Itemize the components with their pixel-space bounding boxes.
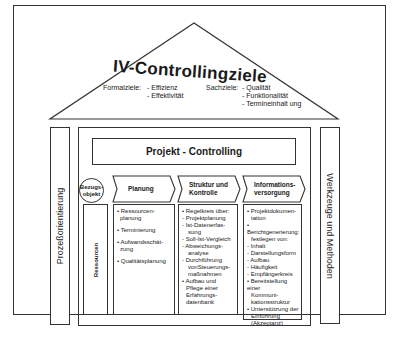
struktur-item: datenbank (182, 299, 235, 306)
struktur-item: • Regelkreis über: (182, 208, 235, 215)
sachziele-label: Sachziele: (206, 84, 238, 91)
struktur-item: maßnahmen (182, 271, 235, 278)
planung-content: • Ressourcen- planung • Terminierung • A… (113, 204, 175, 315)
struktur-item: vonSteuerungs- (182, 264, 235, 271)
struktur-item: sung (182, 229, 235, 236)
information-item: (Akzeptanz) (247, 320, 299, 327)
planung-item: • Qualitätsplanung (117, 258, 172, 265)
information-item: - Darstellungsform (247, 250, 299, 257)
ressourcen-box: Ressourcen (83, 204, 108, 315)
struktur-title-line2: Kontrolle (189, 189, 228, 197)
planung-title: Planung (128, 185, 154, 193)
sachziele-item: - Termineinhalt ung (242, 100, 301, 108)
planung-item: • Aufwandsschät- (117, 239, 172, 246)
formalziele-item: - Effizienz (147, 84, 183, 92)
struktur-item: • Aufbau und (182, 278, 235, 285)
formalziele-item: - Effektivität (147, 92, 183, 100)
planung-item: planung (117, 215, 172, 222)
planung-item: • Terminierung (117, 227, 172, 234)
formalziele-list: - Effizienz - Effektivität (147, 84, 183, 100)
information-item: kationsstruktur (247, 299, 299, 306)
information-item: tation (247, 215, 299, 222)
struktur-title: Struktur und Kontrolle (189, 181, 228, 197)
bezugsobjekt-line2: objekt (80, 191, 103, 198)
ressourcen-label: Ressourcen (93, 242, 99, 276)
bezugsobjekt-line1: Bezugs- (80, 184, 103, 191)
sachziele-item: - Funktionalität (242, 92, 301, 100)
information-item: Kommuni- (247, 292, 299, 299)
information-item: • Bereitstellung einer (247, 278, 299, 292)
information-item: • Berichtgenerierung: (247, 222, 299, 236)
planung-title-text: Planung (128, 185, 154, 193)
projekt-controlling-box: Projekt - Controlling (92, 138, 296, 165)
struktur-item: analyse (182, 250, 235, 257)
struktur-item: - Abweichungs- (182, 243, 235, 250)
struktur-content: • Regelkreis über: - Projektplanung - Is… (178, 204, 238, 315)
struktur-title-line1: Struktur und (189, 181, 228, 189)
struktur-item: Pflege einer (182, 285, 235, 292)
information-item: • Projektdokumen- (247, 208, 299, 215)
planung-item: • Ressourcen- (117, 208, 172, 215)
information-item: • Unterstützung der (247, 306, 299, 313)
right-pillar: Werkzeuge und Methoden (320, 127, 340, 324)
sachziele-item: - Qualität (242, 84, 301, 92)
information-item: - Inhalt (247, 243, 299, 250)
struktur-item: - Soll-Ist-Vergleich (182, 236, 235, 243)
sachziele-list: - Qualität - Funktionalität - Termineinh… (242, 84, 301, 108)
left-pillar: Prozeßorientierung (50, 127, 70, 325)
information-item: - Aufbau (247, 257, 299, 264)
bezugsobjekt-circle: Bezugs- objekt (79, 178, 104, 203)
projekt-controlling-title: Projekt - Controlling (146, 146, 242, 157)
left-pillar-label: Prozeßorientierung (55, 188, 65, 265)
information-title: Informations- versorgung (254, 181, 296, 197)
struktur-item: - Ist-Datenerfas- (182, 222, 235, 229)
formalziele-label: Formalziele: (103, 84, 141, 91)
information-title-line2: versorgung (254, 189, 296, 197)
information-item: Einführung (247, 313, 299, 320)
struktur-item: - Projektplanung (182, 215, 235, 222)
planung-item: zung (117, 246, 172, 253)
struktur-item: - Durchführung (182, 257, 235, 264)
struktur-item: Erfahrungs- (182, 292, 235, 299)
information-title-line1: Informations- (254, 181, 296, 189)
information-item: festlegen von: (247, 236, 299, 243)
information-content: • Projektdokumen- tation • Berichtgeneri… (243, 204, 302, 320)
information-item: - Empfängerkreis (247, 271, 299, 278)
information-item: - Häufigkeit (247, 264, 299, 271)
right-pillar-label: Werkzeuge und Methoden (325, 173, 335, 278)
